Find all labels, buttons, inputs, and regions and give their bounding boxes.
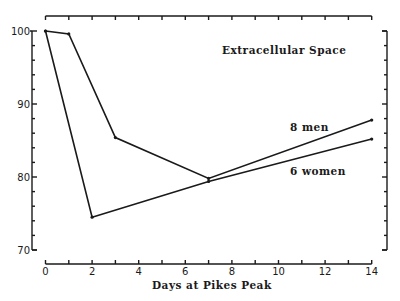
data-point [114,136,117,139]
series-label-men: 8 men [290,121,329,133]
y-tick-label: 100 [11,26,30,37]
x-tick-label: 8 [229,266,235,277]
series-label-women: 6 women [290,165,346,177]
data-point [207,177,210,180]
data-point [91,216,94,219]
x-axis-label: Days at Pikes Peak [152,279,272,291]
x-tick-label: 4 [136,266,142,277]
y-tick-label: 80 [17,172,30,183]
x-tick-label: 14 [365,266,378,277]
data-point [44,29,47,32]
data-point [370,137,373,140]
x-tick-label: 10 [272,266,285,277]
x-tick-label: 2 [89,266,95,277]
data-point [67,32,70,35]
data-point [370,118,373,121]
data-point [207,180,210,183]
y-tick-label: 70 [17,245,30,256]
x-tick-label: 6 [182,266,188,277]
x-tick-label: 0 [42,266,48,277]
chart-title: Extracellular Space [222,44,346,56]
x-tick-label: 12 [319,266,332,277]
chart: 70809010002468101214 Extracellular Space… [0,0,400,301]
y-tick-label: 90 [17,99,30,110]
